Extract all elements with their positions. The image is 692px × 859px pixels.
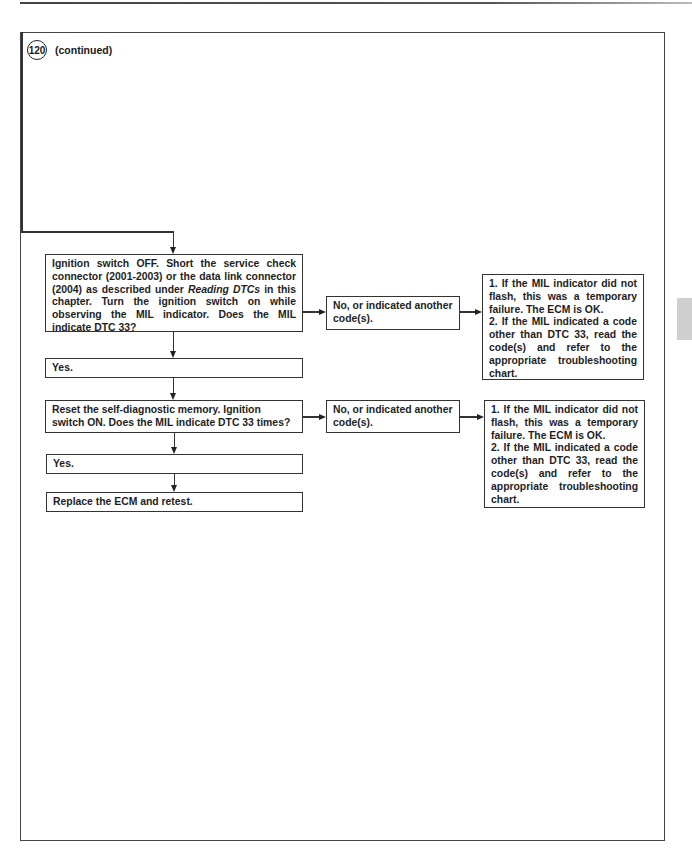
connector-line: [174, 433, 176, 448]
final-action-box: Replace the ECM and retest.: [46, 492, 303, 512]
step2-yes-box: Yes.: [46, 454, 303, 474]
header-rule: [20, 2, 692, 4]
step2-question-box: Reset the self-diagnostic memory. Igniti…: [45, 400, 303, 433]
connector-line: [173, 231, 175, 248]
connector-line: [173, 378, 175, 394]
arrow-down-icon: [170, 247, 176, 254]
arrow-right-icon: [477, 414, 484, 420]
step2-result-item1: 1. If the MIL indicator did not flash, t…: [491, 404, 638, 442]
step1-no-box: No, or indicated another code(s).: [326, 296, 460, 330]
connector-line: [460, 311, 476, 313]
arrow-right-icon: [475, 309, 482, 315]
connector-line: [21, 231, 174, 233]
continued-label: (continued): [55, 44, 112, 56]
connector-line: [460, 416, 478, 418]
connector-line: [21, 32, 23, 232]
arrow-down-icon: [170, 393, 176, 400]
step1-result-item2: 2. If the MIL indicated a code other tha…: [489, 316, 637, 380]
arrow-down-icon: [170, 351, 176, 358]
connector-line: [173, 332, 175, 352]
connector-line: [303, 416, 320, 418]
arrow-down-icon: [171, 447, 177, 454]
step2-result-box: 1. If the MIL indicator did not flash, t…: [484, 400, 645, 508]
figure-number-badge: 120: [27, 40, 47, 60]
step1-question-box: Ignition switch OFF. Short the service c…: [45, 254, 303, 332]
step2-no-box: No, or indicated another code(s).: [326, 400, 460, 433]
step2-result-item2: 2. If the MIL indicated a code other tha…: [491, 442, 638, 506]
step1-emphasis: Reading DTCs: [188, 284, 260, 295]
arrow-right-icon: [319, 309, 326, 315]
connector-line: [303, 311, 320, 313]
arrow-right-icon: [319, 414, 326, 420]
arrow-down-icon: [171, 485, 177, 492]
step1-result-box: 1. If the MIL indicator did not flash, t…: [482, 274, 644, 380]
step1-result-item1: 1. If the MIL indicator did not flash, t…: [489, 278, 637, 316]
chapter-tab: [677, 298, 692, 340]
step1-yes-box: Yes.: [45, 358, 303, 378]
